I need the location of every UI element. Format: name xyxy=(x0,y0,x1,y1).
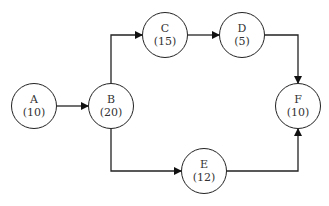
node-duration: (20) xyxy=(100,106,123,119)
edge-e-f xyxy=(227,129,298,171)
node-label: B xyxy=(107,93,115,106)
node-label: A xyxy=(30,93,38,106)
node-b: B (20) xyxy=(88,83,134,129)
node-duration: (5) xyxy=(234,35,250,48)
node-duration: (10) xyxy=(287,106,310,119)
node-f: F (10) xyxy=(275,83,321,129)
node-duration: (10) xyxy=(23,106,46,119)
node-d: D (5) xyxy=(219,12,265,58)
node-e: E (12) xyxy=(181,148,227,194)
node-label: E xyxy=(200,158,208,171)
node-duration: (12) xyxy=(193,171,216,184)
edge-b-c xyxy=(111,35,142,83)
node-a: A (10) xyxy=(11,83,57,129)
node-duration: (15) xyxy=(154,35,177,48)
node-label: D xyxy=(238,22,247,35)
node-c: C (15) xyxy=(142,12,188,58)
node-label: F xyxy=(294,93,302,106)
edge-b-e xyxy=(111,129,181,171)
node-label: C xyxy=(161,22,169,35)
edge-d-f xyxy=(265,35,298,83)
